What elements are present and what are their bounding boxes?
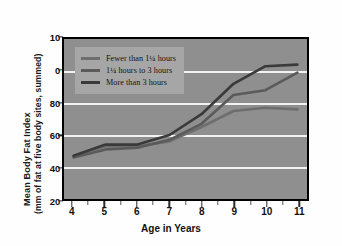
x-axis-title: Age in Years [0,223,342,234]
legend-color-swatch [81,81,100,84]
x-axis-tick-label: 7 [166,206,172,217]
x-axis-minor-tick-mark [282,201,283,205]
x-axis-tick-label: 5 [101,206,107,217]
legend-item: More than 3 hours [81,77,176,88]
x-axis-minor-tick-mark [250,201,251,205]
legend-item-label: More than 3 hours [106,78,167,87]
legend: Fewer than 1¼ hours1¼ hours to 3 hoursMo… [75,47,184,94]
body-fat-index-line-chart: Mean Body Fat Index (mm of fat at five b… [0,0,342,246]
x-axis-tick-label: 10 [261,206,272,217]
x-axis-minor-tick-mark [185,201,186,205]
legend-color-swatch [81,57,100,60]
legend-item-label: Fewer than 1¼ hours [106,54,176,63]
legend-color-swatch [81,69,100,72]
x-axis-tick-label: 6 [134,206,140,217]
x-axis-tick-label: 4 [69,206,75,217]
x-axis-minor-tick-mark [217,201,218,205]
x-axis-minor-tick-mark [120,201,121,205]
x-axis-tick-label: 11 [294,206,305,217]
x-axis-tick-label: 8 [199,206,205,217]
x-axis-tick-label: 9 [231,206,237,217]
x-axis-minor-tick-mark [87,201,88,205]
legend-item: 1¼ hours to 3 hours [81,65,176,76]
y-axis-title-line-1: Mean Body Fat Index [22,112,32,206]
plot-area: Fewer than 1¼ hours1¼ hours to 3 hoursMo… [62,37,309,201]
x-axis-tick-labels: 4567891011 [62,206,309,222]
legend-item: Fewer than 1¼ hours [81,53,176,64]
x-axis-minor-tick-mark [152,201,153,205]
legend-item-label: 1¼ hours to 3 hours [106,66,172,75]
